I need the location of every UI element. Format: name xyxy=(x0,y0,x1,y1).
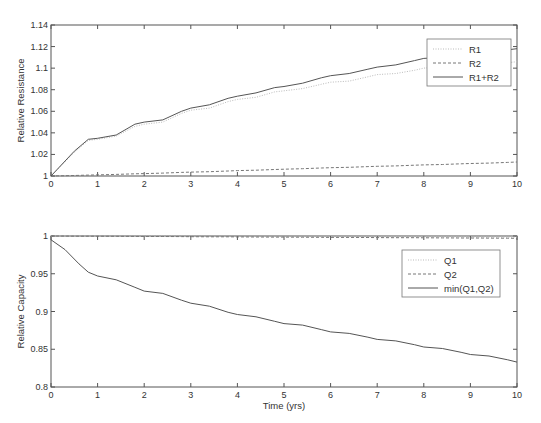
y-tick-label: 1.08 xyxy=(30,85,48,95)
y-tick-label: 1.14 xyxy=(30,20,48,30)
x-tick-label: 3 xyxy=(188,179,193,189)
x-tick-label: 4 xyxy=(235,390,240,400)
resistance-plot: 01234567891011.021.041.061.081.11.121.14… xyxy=(15,20,522,189)
x-tick-label: 2 xyxy=(142,179,147,189)
capacity-plot: 0123456789100.80.850.90.951Relative Capa… xyxy=(15,231,522,411)
y-axis-label: Relative Capacity xyxy=(15,274,26,348)
legend-label: R1+R2 xyxy=(469,72,499,83)
y-tick-label: 1.02 xyxy=(30,149,48,159)
x-tick-label: 1 xyxy=(95,179,100,189)
x-tick-label: 9 xyxy=(468,179,473,189)
y-tick-label: 1.04 xyxy=(30,128,48,138)
y-axis-label: Relative Resistance xyxy=(15,59,26,143)
x-tick-label: 1 xyxy=(95,390,100,400)
x-tick-label: 3 xyxy=(188,390,193,400)
legend-label: R2 xyxy=(469,58,481,69)
x-tick-label: 7 xyxy=(375,179,380,189)
legend: R1R2R1+R2 xyxy=(427,39,511,86)
x-tick-label: 0 xyxy=(48,179,53,189)
legend-label: min(Q1,Q2) xyxy=(444,283,494,294)
x-tick-label: 9 xyxy=(468,390,473,400)
figure: 01234567891011.021.041.061.081.11.121.14… xyxy=(0,0,541,423)
x-tick-label: 2 xyxy=(142,390,147,400)
y-tick-label: 1 xyxy=(43,171,48,181)
y-tick-label: 1 xyxy=(43,231,48,241)
y-tick-label: 0.95 xyxy=(30,269,48,279)
x-tick-label: 6 xyxy=(328,390,333,400)
x-tick-label: 4 xyxy=(235,179,240,189)
x-tick-label: 5 xyxy=(281,390,286,400)
y-tick-label: 0.85 xyxy=(30,344,48,354)
x-tick-label: 8 xyxy=(421,179,426,189)
x-tick-label: 0 xyxy=(48,390,53,400)
x-tick-label: 6 xyxy=(328,179,333,189)
x-tick-label: 8 xyxy=(421,390,426,400)
legend: Q1Q2min(Q1,Q2) xyxy=(402,250,500,297)
y-tick-label: 1.1 xyxy=(35,63,48,73)
x-axis-label: Time (yrs) xyxy=(263,400,305,411)
x-tick-label: 5 xyxy=(281,179,286,189)
x-tick-label: 10 xyxy=(512,179,522,189)
y-tick-label: 1.06 xyxy=(30,106,48,116)
y-tick-label: 1.12 xyxy=(30,42,48,52)
legend-label: Q2 xyxy=(444,269,457,280)
y-tick-label: 0.8 xyxy=(35,382,48,392)
x-tick-label: 10 xyxy=(512,390,522,400)
y-tick-label: 0.9 xyxy=(35,307,48,317)
x-tick-label: 7 xyxy=(375,390,380,400)
legend-label: R1 xyxy=(469,44,481,55)
legend-label: Q1 xyxy=(444,255,457,266)
